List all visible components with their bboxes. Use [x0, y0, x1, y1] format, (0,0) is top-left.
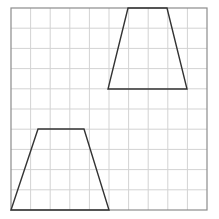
- grid-diagram: [0, 0, 219, 219]
- grid-lines: [11, 8, 207, 210]
